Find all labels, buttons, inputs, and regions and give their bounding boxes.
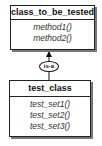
method-item: method1() bbox=[11, 22, 94, 33]
arrowhead-icon bbox=[46, 51, 52, 57]
relationship-label: is-a bbox=[39, 61, 59, 72]
class-box-test-class[interactable]: test_class test_set1() test_set2() test_… bbox=[9, 80, 91, 137]
method-item: test_set1() bbox=[10, 99, 90, 110]
method-item: test_set2() bbox=[10, 110, 90, 121]
method-list: method1() method2() bbox=[11, 20, 94, 44]
method-item: method2() bbox=[11, 33, 94, 44]
class-box-class-to-be-tested[interactable]: class_to_be_tested method1() method2() bbox=[10, 5, 95, 50]
class-name: test_class bbox=[10, 81, 90, 97]
method-item: test_set3() bbox=[10, 121, 90, 132]
method-list: test_set1() test_set2() test_set3() bbox=[10, 97, 90, 132]
class-name: class_to_be_tested bbox=[11, 6, 94, 20]
